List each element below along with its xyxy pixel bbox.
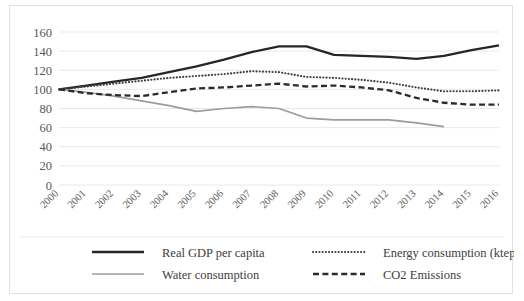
x-axis-tick-label: 2012 [368, 188, 391, 211]
x-axis-tick-label: 2016 [478, 188, 501, 211]
legend-label-3[interactable]: CO2 Emissions [383, 268, 461, 282]
x-axis-tick-label: 2003 [120, 188, 143, 211]
x-axis-tick-label: 2001 [65, 188, 88, 211]
x-axis-tick-label: 2009 [285, 188, 308, 211]
x-axis-tick-label: 2000 [38, 188, 61, 211]
y-axis-tick-label: 160 [33, 26, 52, 40]
y-axis-tick-label: 100 [33, 83, 52, 97]
chart-container: 0204060801001201401602000200120022003200… [9, 5, 513, 294]
y-axis-tick-label: 60 [40, 121, 53, 135]
line-chart: 0204060801001201401602000200120022003200… [10, 6, 514, 295]
series-line-3 [59, 84, 499, 105]
x-axis-tick-label: 2010 [313, 188, 336, 211]
legend-label-0[interactable]: Real GDP per capita [162, 246, 265, 260]
x-axis-tick-label: 2015 [450, 188, 473, 211]
x-axis-tick-label: 2007 [230, 188, 253, 211]
y-axis-tick-label: 80 [40, 102, 53, 116]
y-axis-tick-label: 120 [33, 64, 52, 78]
x-axis-tick-label: 2013 [395, 188, 418, 211]
x-axis-tick-label: 2005 [175, 188, 198, 211]
x-axis-tick-label: 2014 [423, 187, 446, 210]
x-axis-tick-label: 2006 [203, 188, 226, 211]
x-axis-tick-label: 2008 [258, 188, 281, 211]
y-axis-tick-label: 40 [40, 140, 53, 154]
chart-plot-area: 0204060801001201401602000200120022003200… [10, 6, 514, 295]
y-axis-tick-label: 20 [40, 159, 53, 173]
x-axis-tick-label: 2011 [341, 188, 363, 210]
x-axis-tick-label: 2004 [148, 187, 171, 210]
x-axis-tick-label: 2002 [93, 188, 116, 211]
legend-label-1[interactable]: Energy consumption (ktep) [383, 246, 514, 260]
y-axis-tick-label: 140 [33, 45, 52, 59]
legend-label-2[interactable]: Water consumption [162, 268, 260, 282]
